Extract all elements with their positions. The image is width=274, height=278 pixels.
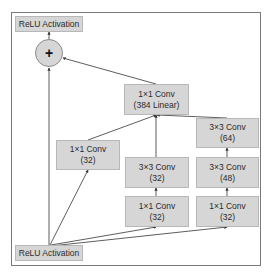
node-label-op: 1×1 Conv (138, 89, 175, 100)
node-label-op: 3×3 Conv (139, 162, 176, 173)
node-label-op: 1×1 Conv (139, 201, 176, 212)
branch3-conv-3x3-48: 3×3 Conv (48) (196, 157, 259, 188)
edge-linear-add (63, 58, 156, 84)
branch1-conv-1x1: 1×1 Conv (32) (56, 140, 120, 170)
branch2-conv-3x3: 3×3 Conv (32) (125, 157, 189, 188)
node-label-filters: (32) (220, 212, 235, 223)
branch3-conv-1x1: 1×1 Conv (32) (196, 196, 259, 227)
node-label-op: 3×3 Conv (209, 122, 246, 133)
node-label-filters: (32) (80, 155, 95, 166)
node-label-filters: (32) (149, 212, 164, 223)
conv-1x1-linear: 1×1 Conv (384 Linear) (124, 84, 189, 115)
node-label-op: 1×1 Conv (209, 201, 246, 212)
node-label-filters: (64) (220, 133, 235, 144)
node-label-filters: (32) (149, 173, 164, 184)
relu-activation-output: ReLU Activation (15, 16, 83, 32)
edge-input-branch1 (50, 170, 88, 245)
branch2-conv-1x1: 1×1 Conv (32) (125, 196, 189, 227)
node-label-filters: (48) (220, 173, 235, 184)
node-label-filters: (384 Linear) (134, 100, 180, 111)
node-label-op: 1×1 Conv (70, 144, 107, 155)
addition-node: + (35, 39, 63, 67)
node-label-op: 3×3 Conv (209, 162, 246, 173)
edge-b1-linear (88, 115, 156, 140)
node-label: ReLU Activation (19, 19, 79, 30)
relu-activation-input: ReLU Activation (15, 245, 83, 261)
branch3-conv-3x3-64: 3×3 Conv (64) (196, 118, 259, 148)
node-label: ReLU Activation (19, 248, 79, 259)
plus-icon: + (45, 45, 53, 61)
